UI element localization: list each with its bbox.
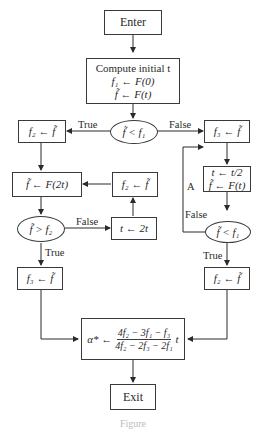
halve-t-node: t ← t/2 f̃ ← F(t) [203, 166, 251, 192]
decision-ftilde-gt-f2: f̃ > f₂ [17, 216, 65, 242]
edge-label-true-3: True [203, 250, 222, 261]
left-assign-f3-node: f₃ ← f̃ [17, 267, 63, 290]
decision-ftilde-lt-f1-second: f̃ < f₁ [205, 221, 251, 243]
alpha-fraction: 4f₂ − 3f₁ − f₃ 4f₂ − 2f₃ − 2f₁ [114, 327, 173, 352]
decision3-label: f̃ < f₁ [217, 226, 240, 238]
edge-label-false-3: False [185, 209, 207, 220]
edge-label-false-2: False [76, 216, 98, 227]
right-assign-f3-node: f₃ ← f̃ [204, 120, 250, 143]
edge-label-false-1: False [169, 119, 191, 130]
decision-ftilde-lt-f1: f̃ < f₁ [110, 120, 158, 144]
mid-assign-f2-node: f₂ ← f̃ [112, 172, 158, 197]
figure-caption: Figure [0, 418, 266, 429]
exit-node: Exit [110, 384, 156, 410]
mid-f2-label: f₂ ← f̃ [122, 178, 148, 191]
enter-node: Enter [104, 10, 162, 35]
compute-initial-node: Compute initial t f₁ ← F(0) f̃ ← F(t) [86, 58, 180, 104]
edge-label-true-1: True [78, 119, 97, 130]
enter-label: Enter [120, 16, 146, 29]
alpha-suffix: t [176, 333, 179, 346]
F2t-label: f̃ ← F(2t) [26, 178, 68, 191]
right-assign-f2-node: f₂ ← f̃ [204, 267, 250, 290]
right-f2-label: f₂ ← f̃ [214, 272, 240, 285]
compute-line1: Compute initial t [96, 62, 171, 75]
left-f3-label: f₃ ← f̃ [27, 272, 53, 285]
edge-label-true-2: True [45, 247, 64, 258]
alpha-numerator: 4f₂ − 3f₁ − f₃ [117, 327, 171, 340]
compute-line3: f̃ ← F(t) [115, 88, 152, 101]
double-t-node: t ← 2t [111, 217, 157, 240]
loop-label-a: A [187, 181, 195, 192]
left-assign-f2-node: f₂ ← f̃ [18, 120, 66, 143]
alpha-prefix: α* ← [87, 333, 112, 346]
decision2-label: f̃ > f₂ [30, 223, 53, 235]
exit-label: Exit [123, 391, 143, 404]
left-f2-label: f₂ ← f̃ [29, 125, 55, 138]
right-f3-label: f₃ ← f̃ [214, 125, 240, 138]
alpha-denominator: 4f₂ − 2f₃ − 2f₁ [114, 340, 173, 352]
decision1-label: f̃ < f₁ [123, 126, 146, 138]
alpha-star-node: α* ← 4f₂ − 3f₁ − f₃ 4f₂ − 2f₃ − 2f₁ t [81, 318, 185, 360]
halve-line1: t ← t/2 [211, 166, 242, 179]
evaluate-F2t-node: f̃ ← F(2t) [12, 172, 82, 197]
halve-line2: f̃ ← F(t) [209, 179, 246, 192]
double-t-label: t ← 2t [120, 222, 148, 235]
compute-line2: f₁ ← F(0) [112, 75, 155, 88]
